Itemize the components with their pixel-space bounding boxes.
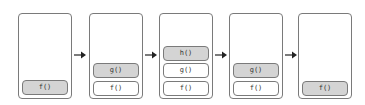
arrow-right-icon bbox=[285, 51, 297, 59]
arrow-right-icon bbox=[215, 51, 227, 59]
stack-frame-f: f() bbox=[233, 81, 279, 96]
call-stack-2: g() f() bbox=[89, 13, 143, 99]
stack-frame-g: g() bbox=[163, 63, 209, 78]
stack-frame-f: f() bbox=[93, 81, 139, 96]
arrow-right-icon bbox=[145, 51, 157, 59]
call-stack-5: f() bbox=[298, 13, 352, 99]
stack-frame-f: f() bbox=[302, 81, 348, 96]
call-stack-3: h() g() f() bbox=[159, 13, 213, 99]
arrow-right-icon bbox=[74, 51, 86, 59]
stack-frame-g: g() bbox=[93, 63, 139, 78]
stack-frame-h: h() bbox=[163, 46, 209, 61]
stack-frame-f: f() bbox=[163, 81, 209, 96]
call-stack-4: g() f() bbox=[229, 13, 283, 99]
stack-frame-g: g() bbox=[233, 63, 279, 78]
stack-frame-f: f() bbox=[22, 80, 68, 95]
call-stack-1: f() bbox=[18, 13, 72, 99]
